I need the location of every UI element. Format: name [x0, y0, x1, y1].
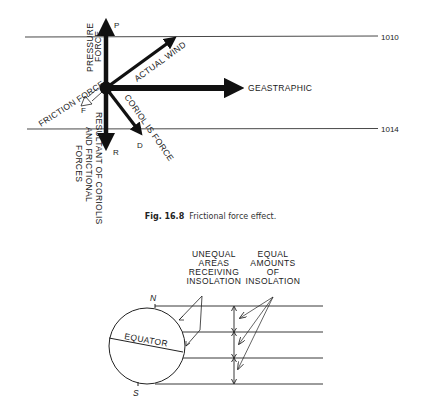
- equal-amounts-label: EQUAL AMOUNTS OF INSOLATION: [238, 249, 300, 369]
- isobar-1014-label: 1014: [381, 125, 399, 134]
- figure-number: Fig. 16.8: [145, 212, 185, 221]
- isobar-1010: 1010: [25, 33, 399, 42]
- coriolis-label: CORIOL IS FORCE: [122, 92, 176, 163]
- resultant-letter: R: [113, 148, 119, 157]
- globe: [109, 308, 185, 384]
- actual-wind-arrow: ACTUAL WIND: [106, 39, 188, 88]
- pressure-force-arrow: P PRESSURE FORCE: [85, 21, 119, 88]
- geostrophic-label: GEASTRAPHIC: [248, 83, 312, 93]
- svg-text:INSOLATION: INSOLATION: [246, 276, 301, 286]
- pressure-force-letter: P: [114, 21, 119, 30]
- coriolis-letter: D: [137, 141, 143, 150]
- frictional-force-diagram: 1010 1014 P PRESSURE FORCE R RESULTANT O…: [0, 0, 421, 406]
- equal-interval-markers: [232, 306, 237, 384]
- insolation-diagram: EQUATOR N S UNEQUAL AREAS RECEIVING INSO…: [109, 249, 323, 398]
- north-label: N: [150, 293, 157, 303]
- resultant-label-3: FORCES: [74, 145, 84, 182]
- isobar-1014: 1014: [27, 125, 399, 134]
- geostrophic-arrow: GEASTRAPHIC: [106, 83, 312, 93]
- south-label: S: [133, 388, 139, 398]
- friction-force-letter: F: [81, 106, 86, 115]
- resultant-label-1: RESULTANT OF CORIOLIS: [94, 112, 104, 225]
- pressure-force-label-2: FORCE: [93, 31, 103, 62]
- resultant-label-2: AND FRICTIONAL: [84, 127, 94, 202]
- origin-dot: [100, 82, 113, 95]
- figure-caption-text: Frictional force effect.: [189, 212, 276, 221]
- unequal-areas-label: UNEQUAL AREAS RECEIVING INSOLATION: [179, 249, 241, 346]
- isobar-1010-label: 1010: [381, 33, 399, 42]
- figure-caption: Fig. 16.8Frictional force effect.: [0, 212, 421, 221]
- svg-text:INSOLATION: INSOLATION: [187, 276, 242, 286]
